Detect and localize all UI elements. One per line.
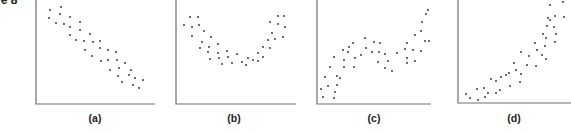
data-point — [218, 57, 220, 59]
panel-label: (a) — [89, 112, 102, 124]
data-point — [84, 49, 86, 51]
data-point — [245, 64, 247, 66]
data-point — [48, 17, 50, 19]
data-point — [116, 59, 118, 61]
data-point — [277, 23, 279, 25]
data-point — [348, 46, 350, 48]
data-point — [128, 74, 130, 76]
data-point — [562, 1, 564, 3]
data-point — [231, 62, 233, 64]
data-point — [79, 29, 81, 31]
data-point — [91, 55, 93, 57]
data-point — [92, 41, 94, 43]
data-point — [209, 58, 211, 60]
data-point — [83, 40, 85, 42]
data-point — [221, 63, 223, 65]
data-point — [553, 26, 555, 28]
data-point — [520, 51, 522, 53]
data-point — [406, 57, 408, 59]
data-point — [191, 35, 193, 37]
data-point — [379, 42, 381, 44]
data-point — [262, 46, 264, 48]
data-point — [542, 33, 544, 35]
data-point — [378, 51, 380, 53]
data-point — [396, 52, 398, 54]
data-point — [109, 69, 111, 71]
data-point — [342, 49, 344, 51]
data-point — [526, 64, 528, 66]
data-point — [69, 16, 71, 18]
axes-lines — [317, 0, 431, 104]
data-point — [183, 24, 185, 26]
data-point — [247, 57, 249, 59]
data-point — [283, 15, 285, 17]
data-point — [555, 33, 557, 35]
data-point — [484, 96, 486, 98]
data-point — [508, 72, 510, 74]
data-point — [269, 21, 271, 23]
data-point — [115, 51, 117, 53]
data-point — [545, 37, 547, 39]
data-point — [377, 61, 379, 63]
data-point — [69, 26, 71, 28]
data-point — [420, 50, 422, 52]
data-point — [547, 17, 549, 19]
data-point — [217, 43, 219, 45]
axes-lines — [36, 0, 155, 104]
panel-c: (c) — [317, 0, 431, 124]
data-point — [49, 9, 51, 11]
data-point — [519, 81, 521, 83]
data-point — [322, 96, 324, 98]
data-point — [427, 9, 429, 11]
panel-label: (d) — [507, 112, 520, 124]
data-point — [421, 21, 423, 23]
data-point — [262, 56, 264, 58]
data-point — [353, 66, 355, 68]
data-point — [477, 99, 479, 101]
data-point — [549, 19, 551, 21]
data-point — [336, 84, 338, 86]
panel-d: (d) — [458, 0, 571, 124]
data-point — [107, 49, 109, 51]
data-point — [324, 76, 326, 78]
data-point — [343, 66, 345, 68]
data-point — [387, 60, 389, 62]
data-point — [241, 61, 243, 63]
data-point — [189, 16, 191, 18]
data-point — [334, 91, 336, 93]
axes-lines — [458, 0, 571, 103]
data-point — [544, 45, 546, 47]
data-point — [424, 40, 426, 42]
data-point — [384, 53, 386, 55]
data-point — [267, 39, 269, 41]
data-point — [124, 62, 126, 64]
data-point — [327, 85, 329, 87]
data-point — [118, 67, 120, 69]
data-point — [197, 16, 199, 18]
data-point — [384, 67, 386, 69]
data-point — [333, 56, 335, 58]
data-point — [425, 13, 427, 15]
data-point — [534, 42, 536, 44]
data-point — [132, 84, 134, 86]
data-point — [499, 89, 501, 91]
data-point — [520, 73, 522, 75]
data-point — [257, 52, 259, 54]
data-point — [371, 51, 373, 53]
data-point — [107, 59, 109, 61]
data-point — [79, 21, 81, 23]
data-point — [138, 87, 140, 89]
data-point — [208, 46, 210, 48]
data-point — [121, 81, 123, 83]
data-point — [364, 37, 366, 39]
data-point — [536, 49, 538, 51]
data-point — [210, 36, 212, 38]
data-point — [465, 93, 467, 95]
data-point — [277, 15, 279, 17]
data-point — [406, 42, 408, 44]
data-point — [257, 60, 259, 62]
data-point — [546, 25, 548, 27]
data-point — [217, 52, 219, 54]
panel-a: (a) — [36, 0, 155, 124]
data-point — [549, 4, 551, 6]
